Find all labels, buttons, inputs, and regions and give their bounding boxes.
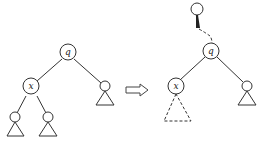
- transform-arrow-icon: [126, 84, 148, 96]
- right-tree: q x: [164, 3, 256, 121]
- tree-diagram: q x q x: [0, 0, 262, 143]
- subtree-right: [238, 91, 256, 105]
- edge-q-right: [217, 57, 243, 82]
- edge-parent-bold: [196, 15, 200, 28]
- edge-q-right: [74, 59, 101, 83]
- subtree-x-left: [7, 122, 24, 136]
- subtree-right: [96, 91, 114, 105]
- left-tree: q x: [7, 44, 114, 136]
- node-x-label: x: [28, 81, 33, 91]
- node-x-label: x: [173, 81, 178, 91]
- node-q-label: q: [65, 47, 71, 57]
- node-x-right: [43, 112, 53, 122]
- edge-x-rightchild: [37, 96, 46, 113]
- edge-q-x: [37, 59, 62, 81]
- node-parent: [191, 3, 203, 15]
- node-q-label: q: [208, 46, 214, 56]
- node-right: [100, 81, 110, 91]
- subtree-x-dashed: [164, 94, 191, 121]
- node-x-left: [10, 112, 20, 122]
- edge-q-x: [180, 57, 205, 80]
- edge-x-leftchild: [17, 96, 26, 113]
- subtree-x-right: [39, 122, 57, 136]
- node-right: [242, 81, 252, 91]
- edge-parent-q-dashed: [199, 29, 212, 43]
